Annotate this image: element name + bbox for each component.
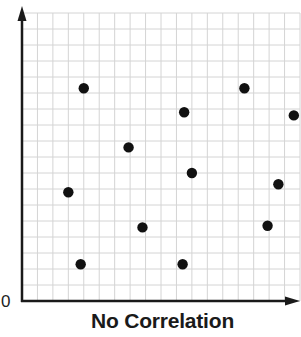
data-point <box>273 179 283 189</box>
data-points <box>63 83 299 269</box>
x-axis-arrow-icon <box>285 297 300 306</box>
scatter-plot <box>0 0 301 337</box>
data-point <box>137 222 147 232</box>
grid <box>22 13 300 301</box>
data-point <box>187 168 197 178</box>
data-point <box>75 259 85 269</box>
data-point <box>63 187 73 197</box>
axes <box>18 6 301 306</box>
data-point <box>239 83 249 93</box>
data-point <box>177 259 187 269</box>
data-point <box>289 110 299 120</box>
data-point <box>179 107 189 117</box>
data-point <box>123 142 133 152</box>
data-point <box>79 83 89 93</box>
data-point <box>262 221 272 231</box>
chart-title: No Correlation <box>0 309 301 333</box>
